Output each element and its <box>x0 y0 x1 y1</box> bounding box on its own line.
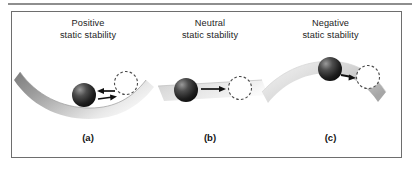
panel-b-displaced-position-circle <box>229 77 252 100</box>
panel-a-title-line1: Positive <box>72 18 105 28</box>
panel-a-caption: (a) <box>14 132 162 143</box>
figure-frame: Positive static stability <box>11 11 402 158</box>
panel-b-caption: (b) <box>144 132 276 143</box>
panel-container: Positive static stability <box>12 12 401 157</box>
panel-neutral-static-stability: Neutral static stability <box>144 12 276 157</box>
panel-b-title: Neutral static stability <box>144 18 276 41</box>
panel-a-title-line2: static stability <box>14 30 162 42</box>
panel-c-title-line2: static stability <box>260 30 401 42</box>
panel-a-title: Positive static stability <box>14 18 162 41</box>
panel-c-displaced-position-circle <box>357 66 380 89</box>
panel-c-ball <box>318 57 342 81</box>
panel-positive-static-stability: Positive static stability <box>14 12 162 157</box>
panel-c-caption: (c) <box>260 132 401 143</box>
panel-a-displaced-position-circle <box>115 72 138 95</box>
panel-c-illustration <box>260 50 401 128</box>
panel-b-title-line2: static stability <box>144 30 276 42</box>
panel-a-arrows <box>97 88 117 101</box>
top-divider-rule <box>8 3 412 5</box>
panel-b-illustration <box>144 50 276 128</box>
panel-c-title: Negative static stability <box>260 18 401 41</box>
figure-root: Positive static stability <box>0 0 419 174</box>
panel-c-title-line1: Negative <box>312 18 349 28</box>
panel-b-title-line1: Neutral <box>195 18 225 28</box>
panel-a-arrow-left <box>97 88 115 94</box>
panel-b-ball <box>174 78 198 102</box>
panel-a-illustration <box>14 50 162 128</box>
panel-a-arrow-right <box>98 95 117 101</box>
panel-negative-static-stability: Negative static stability <box>260 12 401 157</box>
panel-a-ball <box>72 83 96 107</box>
